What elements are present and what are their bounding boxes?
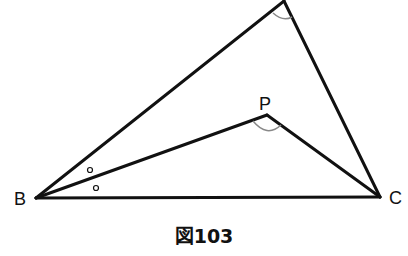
label-p: P	[259, 94, 271, 114]
segment-bc	[36, 197, 380, 198]
angle-mark-circle-lower	[94, 186, 99, 191]
figure-caption: 図103	[175, 225, 234, 247]
angle-mark-circle-upper	[88, 168, 93, 173]
segment-bp	[36, 115, 267, 198]
geometry-figure: B C P 図103	[0, 0, 408, 256]
segment-ab	[36, 1, 284, 198]
segment-ac	[284, 1, 380, 197]
segment-pc	[267, 115, 380, 197]
label-b: B	[14, 189, 26, 209]
label-c: C	[389, 188, 402, 208]
